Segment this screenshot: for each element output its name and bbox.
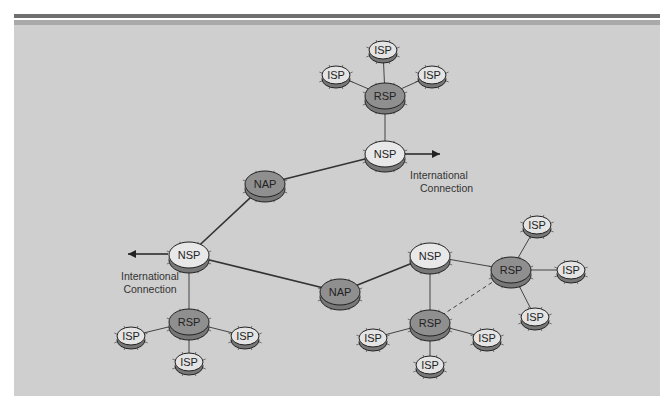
- node-label: ISP: [421, 359, 439, 371]
- node-label: ISP: [180, 356, 198, 368]
- international-label: International: [410, 169, 468, 181]
- node-label: ISP: [374, 44, 392, 56]
- nap-node: NAP: [318, 279, 362, 310]
- node-label: NAP: [329, 286, 352, 298]
- rsp-node: RSP: [408, 310, 452, 341]
- node-label: ISP: [528, 219, 546, 231]
- rsp-node: RSP: [489, 257, 533, 288]
- node-label: RSP: [178, 316, 201, 328]
- node-label: ISP: [327, 69, 345, 81]
- isp-node: ISP: [114, 326, 147, 350]
- node-label: RSP: [419, 317, 442, 329]
- nodes-layer: ISPISPISPRSPNSPNAPNSPRSPISPISPISPNAPNSPR…: [114, 40, 587, 379]
- node-label: ISP: [562, 264, 580, 276]
- isp-node: ISP: [319, 65, 352, 89]
- node-label: ISP: [526, 311, 544, 323]
- edge-nsp_l-nap_b: [189, 255, 340, 292]
- isp-node: ISP: [228, 326, 261, 350]
- node-label: RSP: [374, 90, 397, 102]
- node-label: RSP: [500, 264, 523, 276]
- isp-node: ISP: [413, 355, 446, 379]
- nsp-node: NSP: [408, 243, 452, 274]
- node-label: NSP: [178, 249, 201, 261]
- rsp-node: RSP: [363, 83, 407, 114]
- isp-node: ISP: [366, 40, 399, 64]
- node-label: ISP: [478, 332, 496, 344]
- node-label: ISP: [236, 330, 254, 342]
- international-label: International: [121, 270, 179, 282]
- isp-node: ISP: [415, 65, 448, 89]
- isp-node: ISP: [520, 215, 553, 239]
- nsp-node: NSP: [167, 242, 211, 273]
- node-label: ISP: [423, 69, 441, 81]
- node-label: NAP: [254, 178, 277, 190]
- isp-node: ISP: [518, 307, 551, 331]
- isp-node: ISP: [470, 328, 503, 352]
- node-label: NSP: [374, 148, 397, 160]
- rsp-node: RSP: [167, 309, 211, 340]
- node-label: NSP: [419, 250, 442, 262]
- isp-node: ISP: [356, 328, 389, 352]
- isp-node: ISP: [172, 352, 205, 376]
- nsp-node: NSP: [363, 141, 407, 172]
- connection-label: Connection: [123, 283, 176, 295]
- connection-label: Connection: [420, 182, 473, 194]
- diagram-canvas: InternationalConnectionInternationalConn…: [0, 0, 672, 409]
- nap-node: NAP: [243, 171, 287, 202]
- node-label: ISP: [364, 332, 382, 344]
- network-hierarchy-diagram: InternationalConnectionInternationalConn…: [0, 0, 672, 409]
- isp-node: ISP: [554, 260, 587, 284]
- node-label: ISP: [122, 330, 140, 342]
